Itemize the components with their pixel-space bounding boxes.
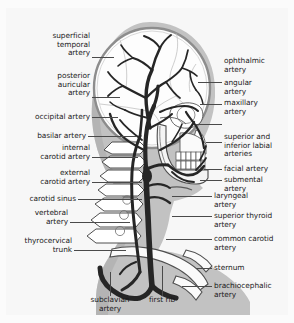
label-ophthalmic-artery: ophthalmic artery [224, 57, 292, 74]
leader-laryngeal-artery [172, 196, 212, 197]
leader-labial-arteries [206, 142, 222, 143]
label-basilar-artery: basilar artery [8, 132, 86, 141]
anatomy-figure: superficial temporal artery posterior au… [0, 0, 294, 323]
leader-sternum [196, 268, 212, 269]
label-common-carotid-artery: common carotid artery [214, 235, 292, 252]
leader-superficial-temporal-artery [92, 57, 114, 58]
label-occipital-artery: occipital artery [3, 113, 90, 122]
leader-ophthalmic-artery [198, 82, 222, 83]
label-superficial-temporal-artery: superficial temporal artery [8, 32, 90, 58]
leader-thyrocervical-trunk [74, 250, 126, 251]
label-internal-carotid-artery: internal carotid artery [6, 144, 90, 161]
label-external-carotid-artery: external carotid artery [6, 169, 90, 186]
leader-posterior-auricular-artery [92, 97, 120, 98]
label-subclavian-artery: subclavian artery [76, 296, 144, 313]
label-angular-artery: angular artery [224, 79, 292, 96]
leader-occipital-artery [92, 117, 118, 118]
label-superior-thyroid-artery: superior thyroid artery [214, 212, 292, 229]
label-sternum: sternum [214, 264, 284, 273]
leader-submental-artery [200, 180, 222, 181]
leader-first-rib [162, 266, 163, 296]
label-posterior-auricular-artery: posterior auricular artery [8, 72, 90, 98]
leader-facial-artery [204, 169, 222, 170]
leader-brachiocephalic-artery [182, 286, 212, 287]
carotid-sinus-marker [142, 169, 152, 183]
leader-vertebral-artery [70, 222, 130, 223]
label-brachiocephalic-artery: brachiocephalic artery [214, 282, 292, 299]
label-maxillary-artery: maxillary artery [224, 99, 292, 116]
leader-angular-artery [200, 104, 222, 105]
label-first-rib: first rib [136, 296, 188, 305]
label-carotid-sinus: carotid sinus [8, 195, 76, 204]
leader-basilar-artery [88, 136, 136, 137]
label-thyrocervical-trunk: thyrocervical trunk [2, 237, 72, 254]
label-superior-and-inferior-labial-arteries: superior and inferior labial arteries [224, 133, 294, 159]
leader-superior-thyroid-artery [172, 216, 212, 217]
label-vertebral-artery: vertebral artery [8, 209, 68, 226]
leader-carotid-sinus [78, 199, 142, 200]
leader-subclavian-artery [110, 272, 111, 296]
label-laryngeal-artery: laryngeal artery [214, 192, 288, 209]
leader-maxillary-artery [196, 124, 222, 125]
leader-common-carotid-artery [166, 239, 212, 240]
label-facial-artery: facial artery [224, 165, 292, 174]
leader-internal-carotid-artery [92, 157, 138, 158]
cranium-outline [94, 28, 210, 148]
leader-external-carotid-artery [92, 182, 142, 183]
